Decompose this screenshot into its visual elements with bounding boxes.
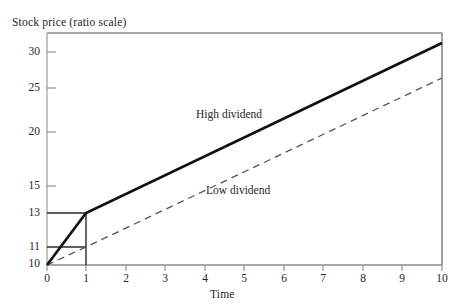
y-tick-label-30: 30 <box>14 45 40 57</box>
y-tick-label-25: 25 <box>14 81 40 93</box>
plot-frame <box>47 33 442 265</box>
x-tick-label-7: 7 <box>313 272 333 284</box>
series-low-dividend <box>47 78 442 265</box>
series-annotation-high-dividend: High dividend <box>196 108 262 120</box>
x-tick-label-0: 0 <box>37 272 57 284</box>
x-axis-title: Time <box>210 288 235 300</box>
x-tick-label-3: 3 <box>155 272 175 284</box>
series-high-dividend <box>47 43 442 265</box>
x-tick-label-10: 10 <box>432 272 452 284</box>
x-tick-label-4: 4 <box>195 272 215 284</box>
x-tick-label-6: 6 <box>274 272 294 284</box>
x-tick-label-1: 1 <box>76 272 96 284</box>
x-axis-ticks <box>47 265 442 271</box>
y-tick-label-11: 11 <box>14 240 40 252</box>
y-tick-label-15: 15 <box>14 179 40 191</box>
x-tick-label-2: 2 <box>116 272 136 284</box>
series-annotation-low-dividend: Low dividend <box>206 184 270 196</box>
x-tick-label-9: 9 <box>392 272 412 284</box>
x-tick-label-5: 5 <box>234 272 254 284</box>
y-tick-label-20: 20 <box>14 125 40 137</box>
y-axis-ticks <box>47 52 56 186</box>
chart-canvas <box>0 0 462 306</box>
stock-price-ratio-scale-chart: Stock price (ratio scale) <box>0 0 462 306</box>
x-tick-label-8: 8 <box>353 272 373 284</box>
y-tick-label-10: 10 <box>14 257 40 269</box>
y-tick-label-13: 13 <box>14 206 40 218</box>
